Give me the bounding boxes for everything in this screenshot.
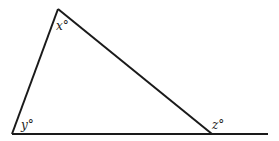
left-side bbox=[12, 9, 58, 134]
angle-label-y: y° bbox=[21, 119, 34, 131]
right-side bbox=[58, 9, 212, 134]
angle-label-z: z° bbox=[212, 119, 224, 131]
triangle-diagram: x° y° z° bbox=[0, 0, 279, 141]
angle-label-x: x° bbox=[56, 20, 69, 32]
triangle-figure bbox=[0, 0, 279, 141]
